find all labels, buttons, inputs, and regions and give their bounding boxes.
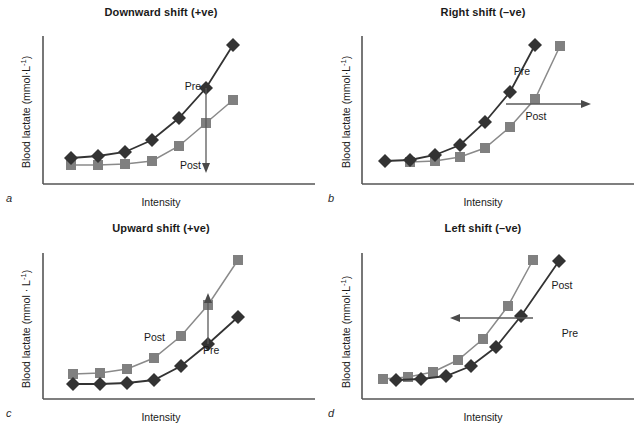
panel-d-post-label: Post: [551, 279, 572, 291]
panel-c-y-axis-label: Blood lactate (mmol · L-1): [20, 270, 32, 388]
panel-c-plot: Pre Post: [0, 216, 322, 433]
panel-d-y-axis-label: Blood lactate (mmol·L-1): [340, 276, 352, 388]
panel-b-pre-series: [378, 38, 542, 168]
panel-c-post-series: [68, 255, 243, 379]
panel-d-x-axis-label: Intensity: [322, 411, 644, 423]
panel-c-up-arrow-icon: [204, 293, 212, 344]
panel-b-axes: [362, 36, 634, 184]
panel-c-pre-label: Pre: [203, 344, 220, 356]
panel-b-pre-label: Pre: [514, 65, 531, 77]
panel-c-letter: c: [6, 407, 12, 419]
panel-d-pre-series: [389, 254, 566, 387]
panel-a-down-arrow-icon: [202, 88, 210, 173]
panel-a-x-axis-label: Intensity: [0, 196, 322, 208]
panel-c-post-label: Post: [144, 331, 165, 343]
panel-c-axes: [43, 253, 315, 399]
panel-a-letter: a: [6, 192, 12, 204]
panel-b-x-axis-label: Intensity: [322, 196, 644, 208]
panel-a-post-series: [66, 95, 238, 170]
panel-b-post-label: Post: [525, 110, 546, 122]
panel-b-letter: b: [328, 192, 334, 204]
panel-a-pre-series: [64, 38, 240, 165]
lactate-curve-figure: Downward shift (+ve): [0, 0, 644, 433]
panel-c: Upward shift (+ve): [0, 216, 322, 433]
panel-a-post-label: Post: [180, 159, 201, 171]
panel-a-pre-label: Pre: [185, 80, 202, 92]
panel-d: Left shift (–ve): [322, 216, 644, 433]
panel-b: Right shift (–ve): [322, 0, 644, 216]
panel-a: Downward shift (+ve): [0, 0, 322, 216]
panel-d-pre-label: Pre: [562, 327, 579, 339]
panel-d-letter: d: [328, 407, 334, 419]
panel-a-y-axis-label: Blood lactate (mmol·L-1): [20, 56, 32, 168]
panel-c-x-axis-label: Intensity: [0, 411, 322, 423]
panel-b-right-arrow-icon: [506, 100, 591, 108]
panel-b-plot: Pre Post: [322, 0, 644, 216]
panel-a-plot: Pre Post: [0, 0, 322, 216]
panel-d-plot: Pre Post: [322, 216, 644, 433]
panel-b-y-axis-label: Blood lactate (mmol·L-1): [340, 56, 352, 168]
